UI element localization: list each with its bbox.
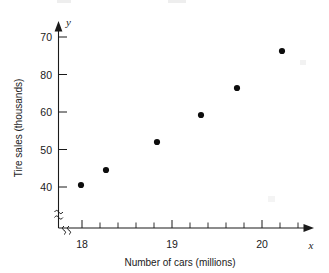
x-axis-ticks-major [82,220,262,228]
y-tick-label-4: 40 [40,181,52,193]
x-tick-label-2: 20 [256,238,268,250]
y-axis-variable-label: y [65,16,71,28]
data-point [279,48,285,54]
scan-artifacts [57,0,306,202]
y-tick-label-2: 60 [40,106,52,118]
x-axis-title: Number of cars (millions) [124,257,235,268]
data-point-series [78,48,285,188]
x-tick-label-0: 18 [76,238,88,250]
y-axis [55,21,63,228]
data-point [78,182,84,188]
y-tick-label-1: 80 [40,69,52,81]
y-tick-label-3: 50 [40,144,52,156]
y-tick-label-0: 70 [40,31,52,43]
data-point [234,85,240,91]
y-axis-arrowhead [55,21,63,32]
x-axis-arrowhead [304,224,315,232]
x-axis [59,224,315,232]
y-axis-ticks [59,37,68,187]
x-axis-ticks-minor [100,223,298,229]
plot-canvas: 70 80 60 50 40 18 19 20 y x Tire sales (… [0,0,329,273]
data-point [198,112,204,118]
x-axis-break-icon [62,226,70,234]
y-axis-title: Tire sales (thousands) [13,79,24,178]
x-axis-variable-label: x [308,239,314,251]
data-point [103,167,109,173]
data-point [154,139,160,145]
scatter-plot-figure: 70 80 60 50 40 18 19 20 y x Tire sales (… [0,0,329,273]
x-tick-label-1: 19 [166,238,178,250]
